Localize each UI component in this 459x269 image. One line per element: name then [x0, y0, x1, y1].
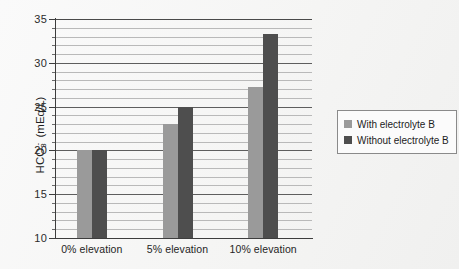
bar [178, 107, 193, 238]
legend-swatch-icon [344, 120, 352, 128]
legend-swatch-icon [344, 136, 352, 144]
y-axis-tick-label: 30 [34, 57, 47, 69]
gridline-major [55, 19, 312, 20]
x-axis-tick-label: 10% elevation [230, 243, 297, 255]
y-axis-tick-label: 25 [34, 101, 47, 113]
y-axis-tick-label: 15 [34, 188, 47, 200]
bar [163, 124, 178, 238]
legend-item: Without electrolyte B [344, 132, 449, 148]
x-axis-tick-label: 5% elevation [147, 243, 208, 255]
gridline-minor [55, 28, 312, 29]
x-axis-spine [55, 238, 313, 239]
plot-area: 353025201510 [55, 19, 312, 238]
legend-item: With electrolyte B [344, 116, 449, 132]
y-axis-tick-label: 20 [34, 144, 47, 156]
bar [263, 34, 278, 238]
legend-item-label: With electrolyte B [357, 119, 435, 130]
bar [92, 150, 107, 238]
bar [77, 150, 92, 238]
chart-legend: With electrolyte B Without electrolyte B [337, 110, 457, 154]
x-axis-tick-label: 0% elevation [61, 243, 122, 255]
y-axis-spine [55, 18, 56, 239]
bar-chart: HCO3- (mEq/L) 353025201510 0% elevation5… [0, 0, 459, 269]
legend-item-label: Without electrolyte B [357, 135, 449, 146]
y-axis-tick-label: 35 [34, 13, 47, 25]
y-axis-tick-label: 10 [34, 232, 47, 244]
bar [248, 87, 263, 238]
